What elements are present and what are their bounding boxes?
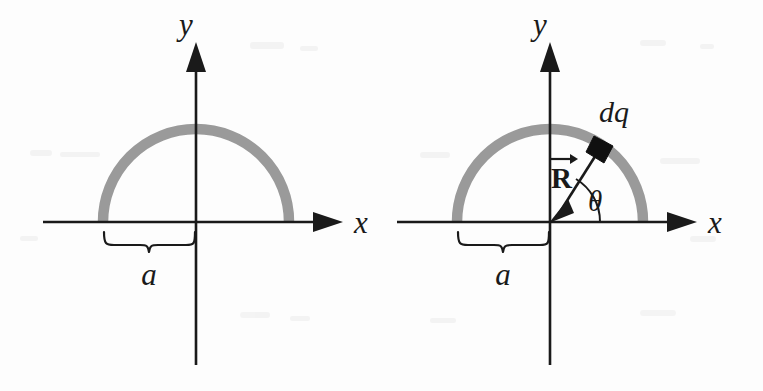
radius-label: a: [495, 257, 511, 292]
radius-label: a: [141, 257, 157, 292]
y-axis-label: y: [530, 7, 547, 42]
figure-page: y x a y x: [0, 0, 763, 391]
radius-brace: [458, 232, 549, 252]
vector-R-label: R: [551, 162, 573, 194]
x-axis-label: x: [353, 205, 368, 240]
vector-overbar-arrowhead: [570, 154, 578, 164]
scan-noise: [20, 40, 716, 323]
x-axis-arrowhead: [667, 212, 697, 232]
radius-brace: [104, 232, 195, 252]
x-axis-arrowhead: [313, 212, 343, 232]
x-axis-label: x: [707, 205, 722, 240]
y-axis-label: y: [176, 7, 193, 42]
physics-figure: y x a y x: [0, 0, 763, 391]
panel-left: y x a: [43, 7, 368, 365]
theta-label: θ: [588, 185, 602, 217]
vector-R-arrowhead: [549, 199, 574, 223]
y-axis-arrowhead: [540, 42, 560, 72]
y-axis-arrowhead: [186, 42, 206, 72]
charge-element-label: dq: [599, 95, 629, 128]
